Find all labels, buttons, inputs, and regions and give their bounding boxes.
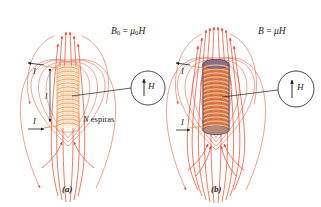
panel-a-coil bbox=[57, 62, 79, 132]
panel-b-current-label-bottom: I bbox=[181, 118, 184, 127]
panel-a-caption: (a) bbox=[62, 185, 73, 194]
panel-a-inset-leader bbox=[72, 88, 131, 96]
panel-a-turns-label: N espiras bbox=[83, 115, 114, 124]
panel-a-current-label-top: I bbox=[33, 67, 36, 76]
panel-b-h-symbol: H bbox=[279, 26, 286, 36]
panel-a-inset-h-label: H bbox=[148, 82, 155, 91]
panel-b-inset-leader bbox=[222, 90, 278, 97]
panel-b-bottom-arrowheads bbox=[188, 144, 244, 176]
panel-a-h-symbol: H bbox=[139, 26, 146, 36]
panel-a-field-equation: B0 = μ0H bbox=[111, 27, 145, 37]
panel-b-current-label-top: I bbox=[181, 67, 184, 76]
panel-a-equals: = bbox=[120, 26, 130, 36]
panel-a-turns-word: espiras bbox=[91, 114, 115, 124]
panel-b-h-inset bbox=[278, 71, 314, 107]
panel-a-current-label-bottom: I bbox=[33, 117, 36, 126]
panel-b-field-equation: B = μH bbox=[258, 27, 286, 37]
panel-b-caption: (b) bbox=[211, 185, 222, 194]
panel-b-core-and-coil bbox=[203, 59, 229, 134]
panel-b-equals: = bbox=[264, 26, 274, 36]
solenoid-magnetic-field-figure: B0 = μ0H I I l N espiras H (a) B = μH I … bbox=[0, 0, 321, 207]
panel-a-length-label: l bbox=[45, 92, 47, 101]
panel-b-inset-h-label: H bbox=[297, 83, 304, 92]
